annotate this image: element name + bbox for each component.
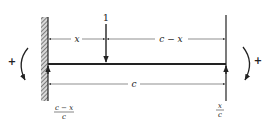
fixed-support-left — [41, 17, 48, 101]
reaction-left-label: c − x c — [54, 104, 74, 121]
moment-right: + — [243, 47, 262, 80]
reaction-left-numerator: c − x — [55, 104, 73, 112]
load-label: 1 — [103, 12, 109, 23]
curved-arrow-icon — [21, 48, 28, 80]
curved-arrow-icon — [243, 47, 250, 80]
unit-load: 1 — [103, 12, 109, 62]
reaction-right-denominator: c — [218, 111, 222, 119]
reaction-right-numerator: x — [218, 102, 222, 110]
reaction-left-denominator: c — [62, 113, 66, 121]
dimension-x-label: x — [74, 34, 79, 44]
moment-right-sign: + — [254, 55, 262, 66]
dimension-span: c — [49, 79, 225, 89]
dimension-top: x c − x — [49, 34, 225, 44]
moment-left-sign: + — [8, 56, 16, 67]
moment-left: + — [8, 48, 28, 80]
dimension-c-label: c — [131, 79, 136, 89]
reaction-right-label: x c — [216, 102, 224, 119]
dimension-c-minus-x-label: c − x — [159, 34, 182, 44]
beam-diagram: 1 x c − x c + + c − x c x c — [0, 0, 271, 123]
